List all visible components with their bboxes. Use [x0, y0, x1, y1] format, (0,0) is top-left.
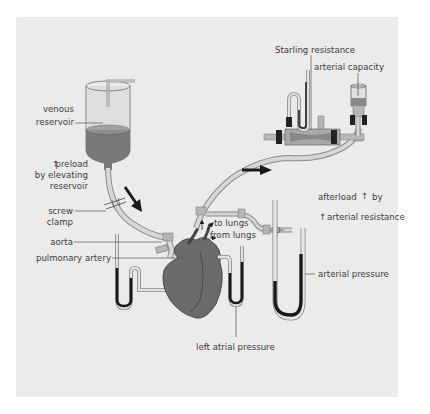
label-afterload: afterload [318, 192, 357, 202]
label-preload-3: reservoir [50, 181, 89, 191]
label-from-lungs: from lungs [210, 230, 256, 240]
up-arrow-afterload-icon: ↑ [361, 191, 368, 201]
up-arrow-resistance-icon: ↑ [319, 212, 326, 222]
label-left-atrial-pressure: left atrial pressure [196, 342, 275, 352]
arterial-pressure-manometer [275, 200, 303, 318]
label-preload-2: by elevating [35, 170, 88, 180]
venous-reservoir [86, 81, 135, 170]
label-preload-1: preload [56, 159, 88, 169]
label-aorta: aorta [50, 237, 73, 247]
label-arterial-resistance: arterial resistance [327, 212, 405, 222]
label-screw-clamp-2: clamp [47, 217, 73, 227]
label-starling-resistance: Starling resistance [275, 45, 355, 55]
arterial-capacity [350, 84, 367, 136]
starling-resistance [264, 70, 364, 145]
label-screw-clamp-1: screw [48, 206, 73, 216]
label-venous-reservoir-1: venous [43, 104, 75, 114]
starling-preparation-diagram: venous reservoir ↑ preload by elevating … [0, 0, 430, 414]
label-venous-reservoir-2: reservoir [36, 117, 75, 127]
label-arterial-capacity: arterial capacity [314, 62, 384, 72]
label-to-lungs: to lungs [214, 218, 249, 228]
label-afterload-by: by [372, 192, 383, 202]
label-pulmonary-artery: pulmonary artery [36, 253, 111, 263]
label-arterial-pressure: arterial pressure [318, 269, 389, 279]
flow-arrow-venous-icon [125, 187, 142, 212]
